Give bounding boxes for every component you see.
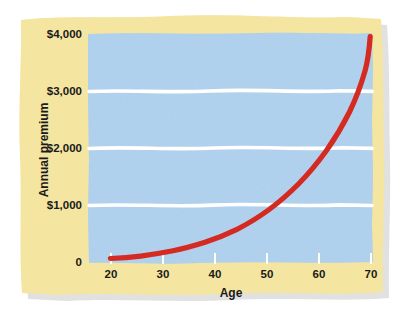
x-tick-label-20: 20 (105, 268, 118, 280)
y-tick-label-3000: $3,000 (47, 85, 82, 97)
y-tick-label-4000: $4,000 (47, 28, 82, 40)
x-tick-label-50: 50 (261, 268, 274, 280)
y-axis-label: Annual premium (37, 103, 51, 198)
x-tick-label-30: 30 (157, 268, 170, 280)
x-axis-label: Age (220, 286, 243, 300)
x-tick-label-70: 70 (365, 268, 378, 280)
y-tick-label-0: 0 (76, 256, 82, 268)
gridline-3000 (89, 90, 372, 91)
y-tick-label-2000: $2,000 (47, 142, 82, 154)
x-tick-label-40: 40 (209, 268, 222, 280)
chart-figure: $4,000 $3,000 $2,000 $1,000 0 20 30 40 5… (0, 0, 407, 324)
y-tick-label-1000: $1,000 (47, 199, 82, 211)
gridline-1000 (89, 204, 372, 205)
chart-canvas: $4,000 $3,000 $2,000 $1,000 0 20 30 40 5… (0, 0, 407, 324)
x-tick-label-60: 60 (313, 268, 326, 280)
